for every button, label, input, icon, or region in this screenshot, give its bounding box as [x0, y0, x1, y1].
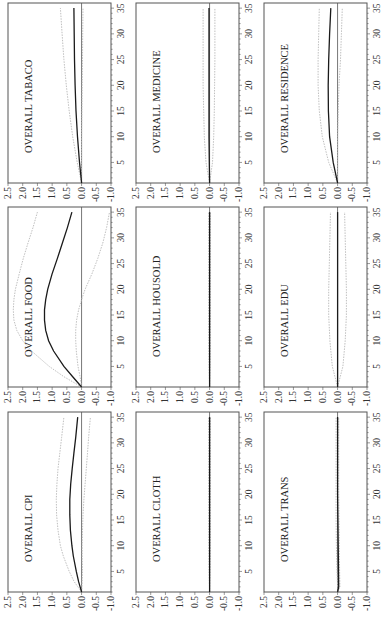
value-tick-label: 2.0 — [18, 187, 28, 199]
value-tick-label: -0.5 — [91, 187, 101, 202]
value-tick-label: 0.5 — [62, 187, 72, 199]
chart-title: OVERALL EDU — [279, 284, 290, 357]
period-tick-label: 20 — [116, 284, 126, 294]
value-tick-label: 0.5 — [190, 596, 200, 608]
chart-title: OVERALL TABACO — [23, 59, 34, 153]
value-tick-label: 0.5 — [318, 391, 328, 403]
period-tick-label: 15 — [372, 106, 382, 116]
value-tick-label: 1.5 — [32, 187, 42, 199]
value-tick-label: 2.0 — [274, 596, 284, 608]
period-tick-label: 10 — [244, 132, 254, 142]
value-tick-label: 2.5 — [131, 596, 141, 608]
value-tick-label: 0.0 — [205, 596, 215, 608]
period-tick-label: 35 — [372, 207, 382, 217]
period-tick-label: 10 — [116, 132, 126, 142]
value-tick-label: 1.0 — [47, 391, 57, 403]
period-tick-label: 5 — [244, 160, 254, 165]
period-tick-label: 35 — [244, 412, 254, 422]
value-tick-label: -0.5 — [347, 596, 357, 611]
response-line — [209, 8, 210, 183]
value-tick-label: 1.0 — [47, 187, 57, 199]
period-tick-label: 10 — [116, 336, 126, 346]
chart-title: OVERALL FOOD — [23, 277, 34, 357]
value-tick-label: -1.0 — [362, 596, 372, 611]
value-tick-label: 0.5 — [190, 187, 200, 199]
value-tick-label: 0.5 — [190, 391, 200, 403]
value-tick-label: -1.0 — [106, 596, 116, 611]
value-tick-label: 1.5 — [160, 391, 170, 403]
value-tick-label: -0.5 — [219, 391, 229, 406]
period-tick-label: 30 — [244, 29, 254, 39]
value-tick-label: 2.0 — [274, 187, 284, 199]
impulse-response-figure: 51015202530352.52.01.51.00.50.0-0.5-1.0O… — [0, 0, 390, 622]
value-tick-label: 0.5 — [62, 596, 72, 608]
value-tick-label: 0.0 — [77, 596, 87, 608]
period-tick-label: 10 — [244, 336, 254, 346]
value-tick-label: -0.5 — [91, 596, 101, 611]
chart-panel-overall-cloth: 51015202530352.52.01.51.00.50.0-0.5-1.0O… — [131, 412, 254, 611]
value-tick-label: 2.0 — [146, 391, 156, 403]
period-tick-label: 25 — [244, 259, 254, 269]
period-tick-label: 30 — [244, 438, 254, 448]
value-tick-label: -1.0 — [362, 187, 372, 202]
chart-title: OVERALL TRANS — [279, 476, 290, 562]
chart-title: OVERALL CPI — [23, 494, 34, 562]
chart-panel-overall-cpi: 51015202530352.52.01.51.00.50.0-0.5-1.0O… — [3, 412, 126, 611]
period-tick-label: 35 — [372, 3, 382, 13]
value-tick-label: 0.0 — [205, 187, 215, 199]
period-tick-label: 5 — [116, 160, 126, 165]
period-tick-label: 35 — [116, 207, 126, 217]
value-tick-label: -0.5 — [91, 391, 101, 406]
period-tick-label: 25 — [372, 55, 382, 65]
period-tick-label: 30 — [116, 438, 126, 448]
value-tick-label: 1.0 — [175, 596, 185, 608]
period-tick-label: 25 — [116, 464, 126, 474]
value-tick-label: 0.5 — [318, 596, 328, 608]
value-tick-label: 2.0 — [274, 391, 284, 403]
period-tick-label: 20 — [244, 489, 254, 499]
period-tick-label: 15 — [372, 310, 382, 320]
period-tick-label: 25 — [116, 259, 126, 269]
value-tick-label: 2.5 — [131, 187, 141, 199]
value-tick-label: -1.0 — [234, 391, 244, 406]
value-tick-label: 2.5 — [3, 391, 13, 403]
period-tick-label: 5 — [372, 160, 382, 165]
value-tick-label: -1.0 — [234, 187, 244, 202]
period-tick-label: 5 — [372, 569, 382, 574]
period-tick-label: 15 — [116, 310, 126, 320]
period-tick-label: 5 — [244, 364, 254, 369]
chart-panel-overall-residence: 51015202530352.52.01.51.00.50.0-0.5-1.0O… — [259, 3, 382, 202]
period-tick-label: 30 — [372, 233, 382, 243]
period-tick-label: 20 — [372, 80, 382, 90]
figure-canvas: 51015202530352.52.01.51.00.50.0-0.5-1.0O… — [0, 0, 390, 622]
chart-title: OVERALL RESIDENCE — [279, 44, 290, 153]
value-tick-label: 2.5 — [259, 391, 269, 403]
value-tick-label: 2.5 — [3, 187, 13, 199]
period-tick-label: 35 — [116, 412, 126, 422]
chart-panel-overall-housold: 51015202530352.52.01.51.00.50.0-0.5-1.0O… — [131, 207, 254, 406]
value-tick-label: 1.0 — [303, 391, 313, 403]
value-tick-label: 2.0 — [18, 596, 28, 608]
value-tick-label: 1.5 — [288, 596, 298, 608]
period-tick-label: 25 — [372, 259, 382, 269]
value-tick-label: 1.5 — [32, 391, 42, 403]
chart-title: OVERALL CLOTH — [151, 475, 162, 562]
value-tick-label: 0.0 — [333, 596, 343, 608]
period-tick-label: 10 — [244, 541, 254, 551]
chart-title: OVERALL MEDICINE — [151, 50, 162, 153]
period-tick-label: 25 — [372, 464, 382, 474]
period-tick-label: 30 — [372, 438, 382, 448]
period-tick-label: 15 — [244, 310, 254, 320]
chart-panel-overall-medicine: 51015202530352.52.01.51.00.50.0-0.5-1.0O… — [131, 3, 254, 202]
value-tick-label: 1.5 — [160, 187, 170, 199]
value-tick-label: 1.0 — [303, 596, 313, 608]
value-tick-label: 2.5 — [131, 391, 141, 403]
value-tick-label: -1.0 — [234, 596, 244, 611]
period-tick-label: 15 — [244, 106, 254, 116]
period-tick-label: 10 — [372, 132, 382, 142]
period-tick-label: 35 — [116, 3, 126, 13]
period-tick-label: 25 — [244, 55, 254, 65]
period-tick-label: 15 — [116, 106, 126, 116]
value-tick-label: -1.0 — [106, 391, 116, 406]
period-tick-label: 10 — [116, 541, 126, 551]
